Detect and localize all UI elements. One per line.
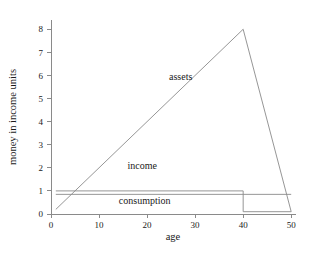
y-tick-label: 1 [39, 186, 44, 196]
y-tick-label: 8 [39, 24, 44, 34]
series-label-consumption: consumption [119, 195, 171, 206]
y-axis: 012345678 money in income units [7, 20, 51, 219]
y-tick-label: 6 [39, 71, 44, 81]
y-tick-labels: 012345678 [39, 24, 44, 219]
data-series-group [56, 29, 291, 211]
x-tick-labels: 01020304050 [49, 220, 296, 230]
chart-plot-svg: 012345678 money in income units 01020304… [0, 0, 313, 258]
x-tick-label: 10 [95, 220, 105, 230]
chart-figure: 012345678 money in income units 01020304… [0, 0, 313, 258]
x-tick-marks [51, 214, 291, 218]
x-tick-label: 0 [49, 220, 54, 230]
y-tick-marks [47, 29, 51, 214]
series-line-assets [56, 29, 291, 211]
series-label-assets: assets [169, 71, 192, 82]
x-tick-label: 30 [191, 220, 201, 230]
y-tick-label: 0 [39, 209, 44, 219]
x-tick-label: 50 [287, 220, 297, 230]
y-tick-label: 5 [39, 94, 44, 104]
x-axis-title: age [166, 231, 181, 242]
series-label-income: income [128, 160, 158, 171]
y-tick-label: 7 [39, 48, 44, 58]
x-tick-label: 20 [143, 220, 153, 230]
x-axis: 01020304050 age [49, 214, 296, 242]
y-tick-label: 3 [39, 140, 44, 150]
y-tick-label: 2 [39, 163, 44, 173]
x-tick-label: 40 [239, 220, 249, 230]
y-tick-label: 4 [39, 117, 44, 127]
y-axis-title: money in income units [7, 69, 18, 165]
